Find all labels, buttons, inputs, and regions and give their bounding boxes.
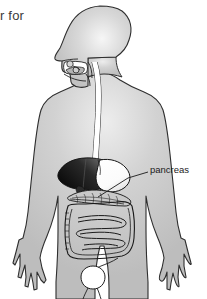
urethra-right [97, 288, 101, 299]
body-silhouette [13, 6, 191, 299]
pancreas-label: pancreas [150, 164, 189, 175]
salivary-gland-upper [67, 61, 73, 67]
digestive-system-illustration [0, 0, 207, 299]
bladder [81, 266, 105, 289]
